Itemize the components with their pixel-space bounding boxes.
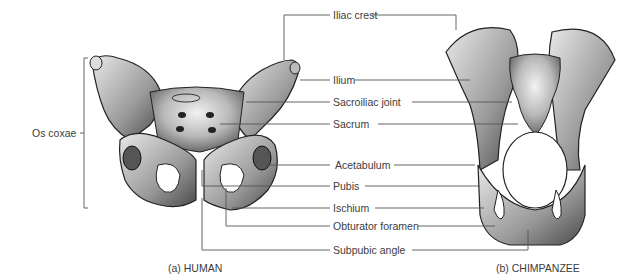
label-obturator-foramen: Obturator foramen (333, 220, 419, 232)
human-pelvis-drawing (90, 56, 300, 210)
caption-human: (a) HUMAN (168, 262, 222, 274)
label-ischium: Ischium (333, 202, 369, 214)
label-iliac-crest: Iliac crest (333, 9, 377, 21)
pelvis-comparison-figure: Iliac crest Ilium Sacroiliac joint Sacru… (0, 0, 641, 280)
label-ilium: Ilium (333, 74, 355, 86)
label-pubis: Pubis (333, 180, 359, 192)
label-sacrum: Sacrum (333, 118, 369, 130)
figure-illustration (0, 0, 641, 280)
label-acetabulum: Acetabulum (335, 159, 390, 171)
label-os-coxae: Os coxae (32, 127, 76, 139)
chimpanzee-pelvis-drawing (446, 28, 615, 245)
label-subpubic-angle: Subpubic angle (333, 244, 405, 256)
label-sacroiliac-joint: Sacroiliac joint (333, 96, 401, 108)
caption-chimpanzee: (b) CHIMPANZEE (496, 262, 580, 274)
